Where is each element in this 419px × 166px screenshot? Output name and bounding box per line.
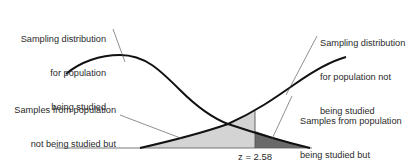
label-line: Samples from population <box>300 116 405 127</box>
label-line: Sampling distribution <box>20 34 106 45</box>
label-line: Samples from population <box>2 105 116 116</box>
leader-line-type2 <box>120 115 183 139</box>
leader-line-studied <box>113 29 125 62</box>
leader-line-not-studied <box>286 36 317 95</box>
label-type-ii-error: Samples from population not being studie… <box>2 83 116 166</box>
label-line: for population not <box>320 72 405 83</box>
label-line: Sampling distribution <box>320 38 405 49</box>
label-type-i-error: Samples from population being studied bu… <box>300 94 405 166</box>
label-line: being studied but <box>300 150 405 161</box>
label-line: for population <box>20 68 106 79</box>
leader-line-type1 <box>272 96 292 139</box>
critical-value-label: z = 2.58 <box>238 151 272 162</box>
label-line: not being studied but <box>2 139 116 150</box>
